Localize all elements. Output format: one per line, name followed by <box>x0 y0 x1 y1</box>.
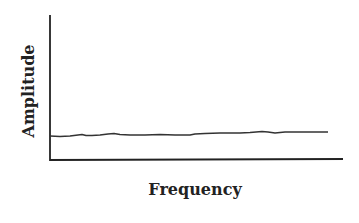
axes <box>50 15 343 161</box>
amplitude-frequency-chart: Frequency Amplitude <box>0 0 359 223</box>
data-line <box>50 132 328 137</box>
x-axis <box>50 159 343 160</box>
x-axis-label: Frequency <box>148 180 242 199</box>
y-axis-label: Amplitude <box>19 44 38 138</box>
